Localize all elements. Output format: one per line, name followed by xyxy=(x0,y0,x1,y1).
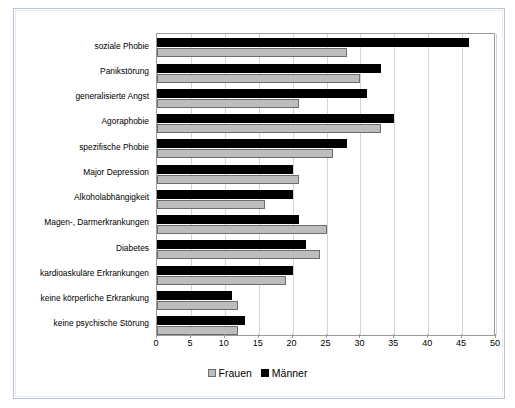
legend-item[interactable]: Männer xyxy=(261,367,308,379)
bar-frauen xyxy=(157,250,320,259)
bar-maenner xyxy=(157,240,306,249)
bar-group xyxy=(157,236,494,261)
bar-group xyxy=(157,186,494,211)
bar-group xyxy=(157,261,494,286)
category-label: Agoraphobie xyxy=(102,116,150,126)
bar-maenner xyxy=(157,190,293,199)
category-label: Diabetes xyxy=(116,243,149,253)
bar-frauen xyxy=(157,48,347,57)
maenner-swatch xyxy=(261,369,269,377)
category-label: spezifische Phobie xyxy=(79,142,149,152)
bar-frauen xyxy=(157,74,360,83)
category-label: keine psychische Störung xyxy=(54,318,149,328)
bar-frauen xyxy=(157,124,381,133)
bar-group xyxy=(157,287,494,312)
bar-frauen xyxy=(157,301,238,310)
legend-item[interactable]: Frauen xyxy=(208,367,252,379)
x-tick-label: 15 xyxy=(253,338,263,348)
bar-maenner xyxy=(157,215,299,224)
bar-frauen xyxy=(157,225,327,234)
bar-frauen xyxy=(157,99,299,108)
bar-maenner xyxy=(157,89,367,98)
bar-group xyxy=(157,160,494,185)
bar-maenner xyxy=(157,316,245,325)
x-tick-label: 45 xyxy=(456,338,466,348)
x-tick-label: 20 xyxy=(287,338,297,348)
category-label: kardioaskuläre Erkrankungen xyxy=(40,268,149,278)
bar-frauen xyxy=(157,200,265,209)
bar-maenner xyxy=(157,165,293,174)
bar-frauen xyxy=(157,326,238,335)
legend-label: Frauen xyxy=(219,367,252,379)
x-tick-label: 35 xyxy=(388,338,398,348)
bar-group xyxy=(157,110,494,135)
bar-group xyxy=(157,85,494,110)
bar-frauen xyxy=(157,276,286,285)
legend-label: Männer xyxy=(272,367,308,379)
chart-page: soziale PhobiePanikstörunggeneralisierte… xyxy=(0,0,515,408)
bar-maenner xyxy=(157,139,347,148)
gridline xyxy=(496,34,497,335)
plot-area xyxy=(156,33,495,336)
x-tick-label: 5 xyxy=(187,338,192,348)
x-tick-label: 0 xyxy=(153,338,158,348)
chart-legend: FrauenMänner xyxy=(0,364,515,382)
frauen-swatch xyxy=(208,369,216,377)
bar-maenner xyxy=(157,114,394,123)
x-tick-label: 40 xyxy=(422,338,432,348)
category-label: generalisierte Angst xyxy=(75,91,149,101)
category-label: Magen-, Darmerkrankungen xyxy=(44,217,149,227)
x-axis: 05101520253035404550 xyxy=(156,338,495,354)
bar-frauen xyxy=(157,149,333,158)
bar-group xyxy=(157,59,494,84)
bar-maenner xyxy=(157,266,293,275)
x-tick-label: 30 xyxy=(354,338,364,348)
category-axis-labels: soziale PhobiePanikstörunggeneralisierte… xyxy=(12,33,153,336)
bar-frauen xyxy=(157,175,299,184)
category-label: Alkoholabhängigkeit xyxy=(74,192,149,202)
x-tick-label: 10 xyxy=(219,338,229,348)
x-tick-label: 25 xyxy=(320,338,330,348)
grouped-bar-chart: soziale PhobiePanikstörunggeneralisierte… xyxy=(0,0,515,408)
bar-group xyxy=(157,135,494,160)
category-label: Major Depression xyxy=(83,167,149,177)
category-label: Panikstörung xyxy=(100,66,149,76)
bar-group xyxy=(157,34,494,59)
bar-maenner xyxy=(157,291,232,300)
bar-maenner xyxy=(157,64,381,73)
bar-group xyxy=(157,211,494,236)
bar-maenner xyxy=(157,38,469,47)
x-tick-label: 50 xyxy=(490,338,500,348)
category-label: soziale Phobie xyxy=(95,41,149,51)
category-label: keine körperliche Erkrankung xyxy=(41,293,149,303)
